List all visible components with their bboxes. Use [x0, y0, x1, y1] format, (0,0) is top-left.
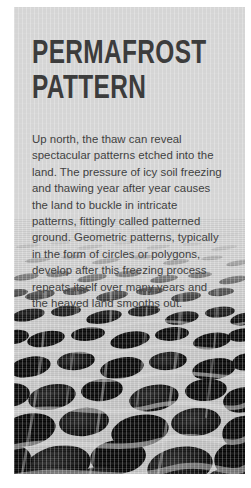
- card-content: Permafrost Pattern Up north, the thaw ca…: [32, 7, 228, 311]
- body-paragraph: Up north, the thaw can reveal spectacula…: [32, 104, 222, 311]
- permafrost-pattern-card: Permafrost Pattern Up north, the thaw ca…: [14, 7, 245, 474]
- page-title: Permafrost Pattern: [32, 7, 177, 104]
